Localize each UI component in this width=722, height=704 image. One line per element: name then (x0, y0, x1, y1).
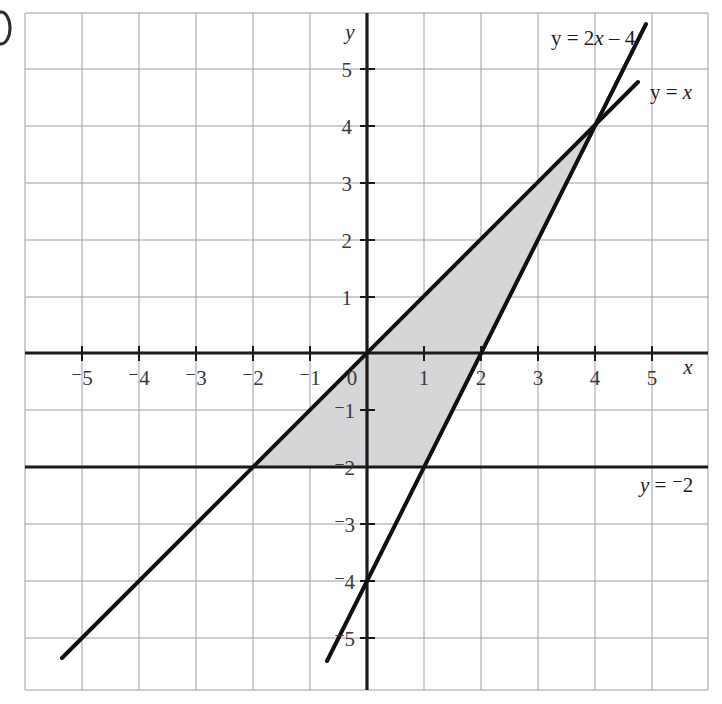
x-tick-label: ⁻5 (71, 366, 93, 390)
y-tick-label: 5 (342, 58, 353, 82)
x-tick-label: 2 (476, 366, 487, 390)
x-tick-label: ⁻1 (299, 366, 321, 390)
y-tick-label: 2 (342, 229, 353, 253)
x-tick-label: ⁻2 (242, 366, 264, 390)
y-axis-label: y (343, 20, 355, 44)
x-tick-label: ⁻3 (185, 366, 207, 390)
x-tick-label: 4 (590, 366, 601, 390)
x-tick-label: ⁻4 (128, 366, 150, 390)
y-tick-label: ⁻1 (334, 399, 356, 423)
y-tick-label: 1 (342, 286, 353, 310)
x-tick-label-zero: 0 (347, 366, 358, 390)
y-tick-label: ⁻3 (334, 513, 356, 537)
y-tick-label: ⁻5 (334, 627, 356, 651)
x-tick-label: 5 (647, 366, 658, 390)
label-line-y-equals-x: y = x (650, 80, 693, 104)
coordinate-plane-svg: ⁻5 ⁻4 ⁻3 ⁻2 ⁻1 0 1 2 3 4 5 5 4 3 2 1 ⁻1 … (0, 0, 722, 704)
graph-figure: ⁻5 ⁻4 ⁻3 ⁻2 ⁻1 0 1 2 3 4 5 5 4 3 2 1 ⁻1 … (0, 0, 722, 704)
y-tick-label: ⁻4 (334, 570, 356, 594)
label-line-y-equals-neg-2: y = ⁻2 (638, 473, 693, 497)
label-line-2x-minus-4: y = 2x – 4 (551, 26, 636, 50)
x-tick-label: 3 (533, 366, 544, 390)
y-tick-label: ⁻2 (334, 456, 356, 480)
x-axis-label: x (682, 355, 693, 379)
y-tick-label: 4 (342, 115, 353, 139)
x-tick-label: 1 (419, 366, 430, 390)
y-tick-label: 3 (342, 172, 353, 196)
